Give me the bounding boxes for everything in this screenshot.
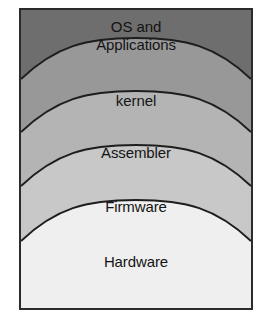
layer-label-assembler: Assembler (21, 144, 251, 162)
layer-label-os-and-applications: OS and Applications (21, 18, 251, 55)
figure-root: OS and Applications kernel Assembler Fir… (0, 0, 271, 335)
layer-label-hardware: Hardware (21, 253, 251, 271)
layer-label-container: OS and Applications kernel Assembler Fir… (21, 10, 251, 308)
layer-label-firmware: Firmware (21, 198, 251, 216)
layered-architecture-diagram: OS and Applications kernel Assembler Fir… (19, 8, 253, 310)
layer-label-kernel: kernel (21, 92, 251, 110)
